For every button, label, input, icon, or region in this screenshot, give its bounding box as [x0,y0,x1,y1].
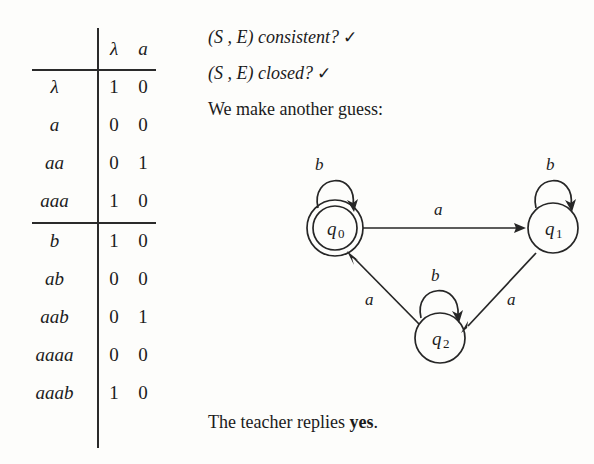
cell-value: 0 [133,226,153,256]
transition-q1-to-q2 [461,253,536,333]
state-q2-subscript: 2 [443,336,450,351]
table-row: λ 1 0 [18,72,188,102]
state-q1-label: q [545,218,555,239]
figure-page: λ a λ 1 0 a 0 0 aa 0 1 aaa 1 0 b 1 0 [0,0,594,464]
transition-q0-to-q1 [363,223,526,233]
table-section-rule [32,222,156,224]
edge-label-q2-q0-a: a [365,290,374,309]
table-row: aaab 1 0 [18,378,188,408]
cell-value: 0 [133,340,153,370]
cell-value: 1 [133,148,153,178]
transition-q2-to-q0 [347,251,419,324]
observation-table: λ a λ 1 0 a 0 0 aa 0 1 aaa 1 0 b 1 0 [18,26,188,451]
row-label: a [18,110,91,140]
state-q2[interactable]: q 2 [415,313,465,363]
cell-value: 1 [133,302,153,332]
edge-label-q0-q1-a: a [434,200,443,219]
checkmark-icon: ✓ [313,64,331,83]
row-label: aaab [18,378,91,408]
loop-label-q2-b: b [431,266,440,285]
row-label: b [18,226,91,256]
consistency-question-text: (S , E) consistent? [208,27,339,47]
teacher-reply-suffix: . [373,412,378,432]
dfa-diagram: q 0 q 1 q 2 b b b a a a [288,148,594,388]
row-label: aaa [18,186,91,216]
cell-value: 0 [104,264,124,294]
cell-value: 0 [133,72,153,102]
table-header-rule [32,69,156,71]
cell-value: 1 [104,226,124,256]
teacher-reply-line: The teacher replies yes. [208,412,378,433]
cell-value: 0 [104,148,124,178]
cell-value: 0 [133,110,153,140]
table-header-row: λ a [18,34,188,64]
cell-value: 0 [104,110,124,140]
cell-value: 0 [104,340,124,370]
closed-question-text: (S , E) closed? [208,63,313,83]
cell-value: 1 [104,72,124,102]
loop-label-q0-b: b [315,155,324,174]
cell-value: 0 [104,302,124,332]
loop-label-q1-b: b [546,155,555,174]
self-loop-q1 [535,181,576,212]
table-row: b 1 0 [18,226,188,256]
row-label: aaaa [18,340,91,370]
cell-value: 1 [104,186,124,216]
cell-value: 0 [133,378,153,408]
checkmark-icon: ✓ [339,28,357,47]
teacher-reply-answer: yes [349,412,373,432]
table-row: a 0 0 [18,110,188,140]
state-q0[interactable]: q 0 [307,200,363,256]
row-label: aab [18,302,91,332]
row-label: ab [18,264,91,294]
teacher-reply-prefix: The teacher replies [208,412,349,432]
consistency-question-line: (S , E) consistent?✓ [208,27,357,48]
row-label: aa [18,148,91,178]
row-label: λ [18,72,91,102]
closed-question-line: (S , E) closed?✓ [208,63,331,84]
self-loop-q0 [317,181,358,212]
column-header-lambda: λ [104,34,124,64]
cell-value: 0 [133,186,153,216]
state-q1[interactable]: q 1 [528,203,578,253]
state-q1-subscript: 1 [556,226,563,241]
table-row: aa 0 1 [18,148,188,178]
table-row: aaa 1 0 [18,186,188,216]
state-q0-subscript: 0 [338,226,345,241]
guess-announcement-line: We make another guess: [208,99,383,120]
table-row: aab 0 1 [18,302,188,332]
state-q2-label: q [432,328,442,349]
column-header-a: a [133,34,153,64]
edge-label-q1-q2-a: a [507,290,516,309]
table-row: ab 0 0 [18,264,188,294]
cell-value: 0 [133,264,153,294]
state-q0-label: q [327,218,337,239]
cell-value: 1 [104,378,124,408]
table-row: aaaa 0 0 [18,340,188,370]
